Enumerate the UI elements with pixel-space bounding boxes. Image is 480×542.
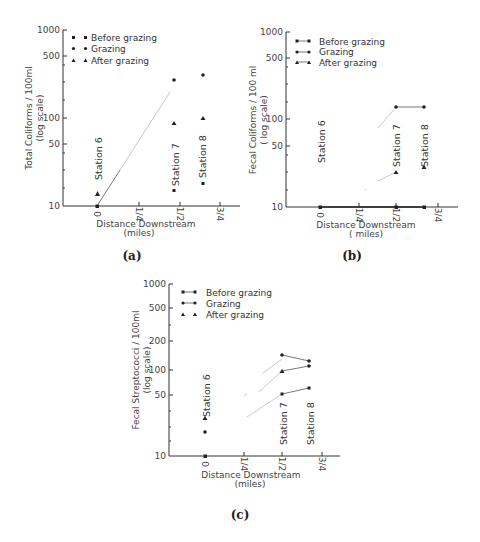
y-axis-scale-note: (log scale) bbox=[35, 95, 45, 142]
point-after-s7 bbox=[172, 121, 177, 125]
square-marker-icon bbox=[84, 36, 87, 39]
x-axis-unit: (miles) bbox=[123, 228, 154, 238]
point-before-s8 bbox=[308, 387, 311, 390]
square-marker-icon bbox=[308, 40, 311, 43]
y-axis-label: Fecal Coliforms / 100 ml bbox=[248, 66, 258, 175]
caption-a: (a) bbox=[122, 249, 141, 263]
square-marker-icon bbox=[182, 291, 185, 294]
legend-before: Before grazing bbox=[206, 288, 272, 298]
point-grazing-s8 bbox=[201, 73, 205, 77]
legend: Before grazing Grazing After grazing bbox=[295, 37, 385, 68]
station-6-label: Station 6 bbox=[201, 374, 212, 417]
y-minor-ticks bbox=[169, 284, 173, 441]
point-before-s7 bbox=[173, 189, 176, 192]
point-after-s8 bbox=[307, 364, 311, 368]
triangle-marker-icon bbox=[84, 59, 88, 63]
point-after-s8 bbox=[201, 116, 206, 120]
circle-marker-icon bbox=[84, 47, 87, 50]
x-tick-0: 0 bbox=[315, 212, 325, 218]
station-7-label: Station 7 bbox=[170, 143, 181, 186]
y-axis-scale-note: (log scale) bbox=[142, 347, 152, 394]
x-tick-0: 0 bbox=[200, 461, 210, 467]
y-axis-label: Total Coliforms / 100ml bbox=[24, 66, 34, 171]
y-tick-100: 100 bbox=[43, 113, 60, 123]
point-before-s7 bbox=[395, 206, 399, 210]
y-tick-50: 50 bbox=[155, 390, 167, 400]
square-marker-icon bbox=[72, 36, 75, 39]
figure: 1000 500 100 50 10 0 1/4 1/2 3/4 Distanc… bbox=[0, 0, 480, 542]
chart-c: 1000 500 200 100 50 10 0 1/4 1/2 3/4 Dis… bbox=[131, 279, 340, 522]
legend-before: Before grazing bbox=[319, 37, 385, 47]
x-tick-three-quarter: 3/4 bbox=[215, 207, 225, 222]
y-tick-500: 500 bbox=[266, 53, 283, 63]
y-tick-10: 10 bbox=[155, 451, 167, 461]
circle-marker-icon bbox=[307, 50, 310, 53]
triangle-marker-icon bbox=[181, 313, 185, 317]
legend-grazing: Grazing bbox=[91, 44, 126, 54]
y-tick-500: 500 bbox=[43, 51, 60, 61]
x-tick-three-quarter: 3/4 bbox=[317, 457, 327, 472]
point-grazing-s8 bbox=[422, 105, 426, 109]
y-tick-200: 200 bbox=[149, 336, 166, 346]
legend-after: After grazing bbox=[91, 56, 149, 66]
point-after-s6 bbox=[95, 191, 100, 196]
legend-after: After grazing bbox=[319, 58, 377, 68]
station-8-label: Station 8 bbox=[305, 402, 316, 445]
legend-grazing: Grazing bbox=[206, 299, 241, 309]
square-marker-icon bbox=[194, 291, 197, 294]
y-minor-ticks bbox=[286, 32, 290, 190]
circle-marker-icon bbox=[295, 50, 298, 53]
y-minor-ticks bbox=[63, 30, 67, 188]
station-7-label: Station 7 bbox=[278, 402, 289, 445]
x-axis-unit: (miles) bbox=[234, 479, 265, 489]
point-before-s6 bbox=[96, 205, 100, 209]
point-grazing-s7 bbox=[172, 78, 176, 82]
triangle-marker-icon bbox=[193, 313, 197, 317]
y-tick-50: 50 bbox=[49, 139, 61, 149]
chart-a: 1000 500 100 50 10 0 1/4 1/2 3/4 Distanc… bbox=[24, 25, 240, 263]
chart-b: 1000 500 100 50 10 0 1/4 1/2 3/4 Distanc… bbox=[248, 27, 458, 263]
point-before-s8 bbox=[202, 182, 205, 185]
point-grazing-s6 bbox=[203, 430, 207, 434]
station-6-label: Station 6 bbox=[93, 137, 104, 180]
point-before-s6 bbox=[204, 455, 208, 459]
y-tick-1000: 1000 bbox=[37, 25, 60, 35]
station-7-label: Station 7 bbox=[391, 124, 402, 167]
station-8-label: Station 8 bbox=[419, 124, 430, 167]
point-after-s7 bbox=[394, 170, 399, 174]
circle-marker-icon bbox=[193, 301, 196, 304]
y-tick-1000: 1000 bbox=[260, 27, 283, 37]
y-tick-500: 500 bbox=[149, 303, 166, 313]
point-before-s7 bbox=[281, 393, 284, 396]
station-8-label: Station 8 bbox=[197, 135, 208, 178]
y-axis-label: Fecal Streptococci / 100ml bbox=[131, 310, 141, 429]
y-tick-50: 50 bbox=[272, 141, 284, 151]
y-tick-10: 10 bbox=[272, 202, 284, 212]
station-6-label: Station 6 bbox=[316, 120, 327, 163]
x-tick-three-quarter: 3/4 bbox=[433, 208, 443, 223]
legend-after: After grazing bbox=[206, 310, 264, 320]
x-axis-unit: ( miles) bbox=[349, 229, 383, 239]
point-grazing-s8 bbox=[307, 359, 311, 363]
y-axis-scale-note: ( log scale) bbox=[259, 95, 269, 145]
circle-marker-icon bbox=[181, 301, 184, 304]
point-grazing-s7 bbox=[280, 353, 284, 357]
y-tick-1000: 1000 bbox=[143, 279, 166, 289]
x-tick-0: 0 bbox=[92, 211, 102, 217]
square-marker-icon bbox=[296, 40, 299, 43]
caption-b: (b) bbox=[342, 249, 362, 263]
legend-grazing: Grazing bbox=[319, 47, 354, 57]
triangle-marker-icon bbox=[72, 59, 76, 63]
legend: Before grazing Grazing After grazing bbox=[72, 33, 157, 66]
point-before-s6 bbox=[319, 206, 323, 210]
point-before-s8 bbox=[423, 206, 427, 210]
legend: Before grazing Grazing After grazing bbox=[181, 288, 272, 320]
y-tick-10: 10 bbox=[49, 201, 61, 211]
caption-c: (c) bbox=[231, 508, 250, 522]
point-grazing-s7 bbox=[394, 105, 398, 109]
circle-marker-icon bbox=[72, 47, 75, 50]
legend-before: Before grazing bbox=[91, 33, 157, 43]
